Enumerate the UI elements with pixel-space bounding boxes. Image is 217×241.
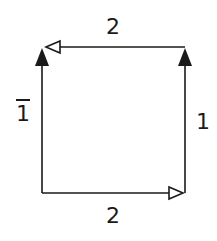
bottom-edge-label: 2 xyxy=(106,205,120,227)
left-edge-label: 1 xyxy=(16,103,30,125)
left-filled-arrowhead-icon xyxy=(35,48,49,66)
bottom-open-arrowhead-icon xyxy=(169,187,183,199)
top-edge-label: 2 xyxy=(106,16,120,38)
right-filled-arrowhead-icon xyxy=(178,48,192,66)
top-open-arrowhead-icon xyxy=(46,41,60,53)
right-edge-label: 1 xyxy=(196,111,210,133)
